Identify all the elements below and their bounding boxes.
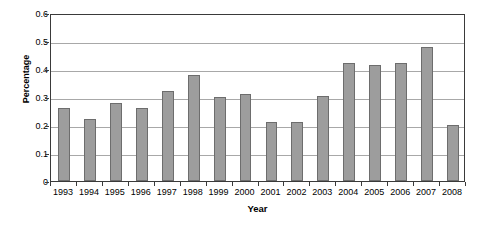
bar	[162, 91, 174, 181]
bar	[58, 108, 70, 181]
x-axis-tick-label: 2008	[442, 187, 462, 198]
x-axis-tick-label: 2003	[312, 187, 332, 198]
bar	[447, 125, 459, 181]
bar	[266, 122, 278, 181]
bar	[369, 65, 381, 181]
x-axis-tick-mark	[361, 182, 362, 186]
bar	[84, 119, 96, 181]
y-axis-tick-mark	[45, 126, 49, 127]
x-axis-tick-mark	[439, 182, 440, 186]
y-axis-tick-mark	[45, 154, 49, 155]
x-axis-tick-mark	[232, 182, 233, 186]
bar	[136, 108, 148, 181]
x-axis-tick-label: 2004	[338, 187, 358, 198]
x-axis-tick-mark	[413, 182, 414, 186]
x-axis-tick-label: 1993	[53, 187, 73, 198]
y-axis-tick-mark	[45, 42, 49, 43]
x-axis-tick-label: 1999	[209, 187, 229, 198]
x-axis-tick-mark	[102, 182, 103, 186]
x-axis-tick-mark	[309, 182, 310, 186]
x-axis-tick-label: 2006	[390, 187, 410, 198]
x-axis-tick-label: 2007	[416, 187, 436, 198]
x-axis-tick-mark	[387, 182, 388, 186]
x-axis-tick-mark	[258, 182, 259, 186]
x-axis-tick-label: 1997	[157, 187, 177, 198]
x-axis-tick-label: 1996	[131, 187, 151, 198]
bar-series	[51, 15, 464, 181]
x-axis-tick-label: 2002	[286, 187, 306, 198]
bar	[291, 122, 303, 181]
plot-area	[50, 14, 465, 182]
x-axis-tick-label: 2000	[235, 187, 255, 198]
x-axis-tick-label: 1995	[105, 187, 125, 198]
x-axis-tick-mark	[154, 182, 155, 186]
y-axis-tick-mark	[45, 98, 49, 99]
bar	[317, 96, 329, 181]
x-axis-tick-mark	[76, 182, 77, 186]
x-axis-tick-mark	[206, 182, 207, 186]
x-axis-tick-label: 1994	[79, 187, 99, 198]
x-axis-tick-labels: 1993199419951996199719981999200020012002…	[50, 187, 465, 201]
y-axis-tick-mark	[45, 14, 49, 15]
x-axis-tick-mark	[128, 182, 129, 186]
x-axis-tick-mark	[180, 182, 181, 186]
x-axis-title: Year	[50, 203, 465, 214]
bar-chart: Percentage 00.10.20.30.40.50.6 199319941…	[0, 0, 478, 226]
bar	[240, 94, 252, 181]
bar	[188, 75, 200, 181]
bar	[343, 63, 355, 181]
y-axis-tick-mark	[45, 70, 49, 71]
bar	[395, 63, 407, 181]
x-axis-tick-mark	[283, 182, 284, 186]
x-axis-tick-label: 1998	[183, 187, 203, 198]
bar	[421, 47, 433, 181]
y-axis-tick-labels: 00.10.20.30.40.50.6	[20, 0, 48, 226]
bar	[110, 103, 122, 181]
y-axis-tick-mark	[45, 182, 49, 183]
x-axis-tick-mark	[50, 182, 51, 186]
x-axis-tick-mark	[335, 182, 336, 186]
x-axis-tick-label: 2001	[260, 187, 280, 198]
bar	[214, 97, 226, 181]
x-axis-tick-label: 2005	[364, 187, 384, 198]
x-axis-tick-mark	[465, 182, 466, 186]
